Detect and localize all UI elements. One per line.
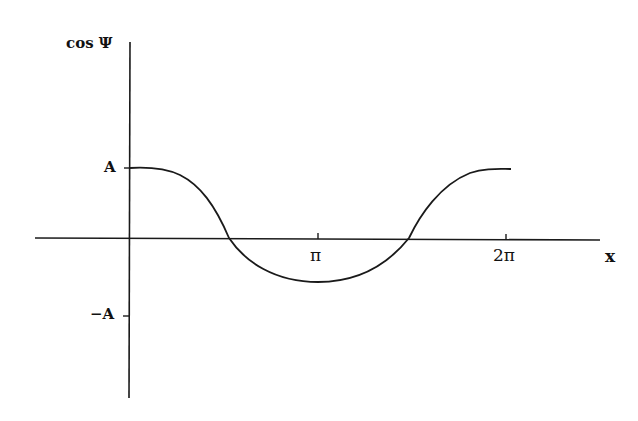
x-tick-label-2pi: 2π bbox=[493, 247, 515, 264]
y-axis-label: cos Ψ bbox=[66, 36, 113, 51]
y-axis bbox=[129, 42, 130, 398]
x-tick-label-pi: π bbox=[310, 247, 321, 264]
x-axis-label: x bbox=[605, 248, 615, 265]
y-tick-label-A: A bbox=[104, 160, 116, 175]
chart-canvas bbox=[0, 0, 638, 421]
y-tick-label-neg-A: −A bbox=[90, 307, 114, 322]
